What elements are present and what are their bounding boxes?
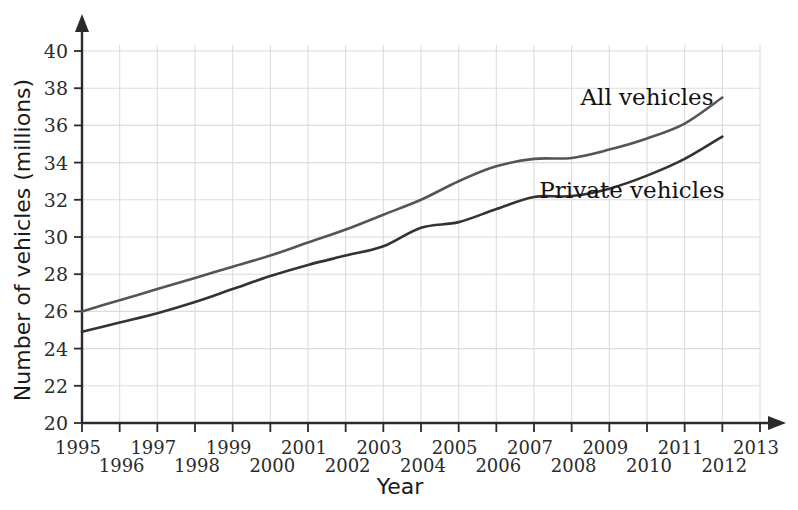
y-tick-label: 26 xyxy=(44,300,68,322)
x-tick-label: 2005 xyxy=(432,437,478,458)
x-tick-labels-group: 1995199619971998199920002001200220032004… xyxy=(55,437,779,476)
y-tick-label: 38 xyxy=(44,77,68,99)
x-tick-label: 2000 xyxy=(249,455,295,476)
y-tick-label: 32 xyxy=(44,189,68,211)
y-axis-title: Number of vehicles (millions) xyxy=(10,79,35,401)
x-tick-label: 2002 xyxy=(325,455,371,476)
x-tick-label: 1995 xyxy=(55,437,101,458)
y-tick-label: 30 xyxy=(44,226,68,248)
x-tick-label: 1997 xyxy=(130,437,176,458)
x-tick-label: 2006 xyxy=(475,455,521,476)
x-tick-label: 2009 xyxy=(582,437,628,458)
chart-canvas: 2022242628303234363840 19951996199719981… xyxy=(0,0,798,510)
y-tick-label: 20 xyxy=(44,412,68,434)
x-tick-label: 2001 xyxy=(281,437,327,458)
axes-group xyxy=(75,14,786,430)
series-line-all-vehicles xyxy=(82,98,722,312)
data-series-group xyxy=(82,98,722,332)
x-tick-label: 2004 xyxy=(400,455,446,476)
series-annotation-all-vehicles: All vehicles xyxy=(579,84,713,110)
y-tick-label: 24 xyxy=(44,338,68,360)
x-tick-label: 2012 xyxy=(701,455,747,476)
x-tick-label: 2013 xyxy=(733,437,779,458)
x-tick-label: 1996 xyxy=(99,455,145,476)
series-annotation-private-vehicles: Private vehicles xyxy=(539,177,724,203)
x-tick-label: 1999 xyxy=(206,437,252,458)
x-tick-label: 2007 xyxy=(507,437,553,458)
x-axis-arrowhead-icon xyxy=(768,416,786,430)
x-tick-label: 2003 xyxy=(356,437,402,458)
y-tick-label: 22 xyxy=(44,375,68,397)
series-line-private-vehicles xyxy=(82,137,722,332)
y-tick-label: 40 xyxy=(44,40,68,62)
y-tick-label: 28 xyxy=(44,263,68,285)
line-chart-figure: 2022242628303234363840 19951996199719981… xyxy=(0,0,798,510)
x-tick-label: 1998 xyxy=(174,455,220,476)
x-tick-label: 2010 xyxy=(626,455,672,476)
axis-titles-group: Number of vehicles (millions) Year xyxy=(10,79,424,499)
x-tick-label: 2008 xyxy=(551,455,597,476)
y-tick-label: 34 xyxy=(44,152,68,174)
x-tick-label: 2011 xyxy=(658,437,704,458)
y-tick-label: 36 xyxy=(44,114,68,136)
x-axis-title: Year xyxy=(376,474,425,499)
y-tick-labels-group: 2022242628303234363840 xyxy=(44,40,68,434)
y-axis-arrowhead-icon xyxy=(75,14,89,32)
